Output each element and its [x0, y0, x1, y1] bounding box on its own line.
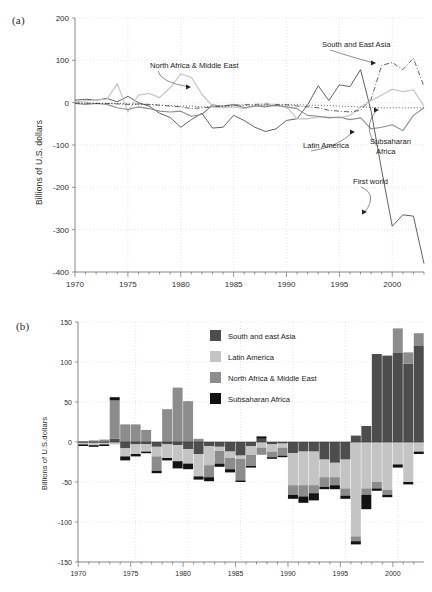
panel-a-label: (a): [12, 14, 25, 26]
bar-segment: [236, 480, 246, 482]
bar-segment: [204, 465, 214, 477]
bar-segment: [298, 452, 308, 486]
bar-segment: [89, 443, 99, 445]
bar-segment: [204, 477, 214, 481]
bar-segment: [361, 488, 371, 494]
bar-segment: [257, 442, 267, 448]
x-axis-tick-label: 1985: [228, 570, 244, 577]
bar-segment: [246, 455, 256, 466]
bar-segment: [393, 464, 403, 467]
bar-segment: [89, 445, 99, 447]
line-chart-a: -400-300-200-100010020019701975198019851…: [0, 0, 432, 300]
legend-label: Latin America: [228, 353, 275, 362]
bar-segment: [131, 442, 141, 444]
bar-segment: [309, 485, 319, 493]
bar-segment: [351, 442, 361, 536]
bar-group: [351, 436, 361, 545]
bar-segment: [246, 442, 256, 446]
bar-segment: [382, 490, 392, 495]
bar-group: [173, 388, 183, 469]
bar-segment: [173, 388, 183, 442]
bar-segment: [141, 444, 151, 451]
bar-group: [267, 442, 277, 459]
line-series-south-and-east-asia: [75, 58, 424, 112]
bar-segment: [162, 458, 172, 460]
bar-segment: [340, 496, 350, 499]
bar-group: [288, 442, 298, 499]
bar-segment: [152, 442, 162, 447]
x-axis-tick-label: 1990: [278, 280, 296, 289]
bar-segment: [330, 442, 340, 463]
bar-segment: [382, 442, 392, 490]
bar-segment: [246, 466, 256, 468]
bar-segment: [183, 449, 193, 463]
bar-segment: [403, 352, 413, 363]
stacked-bar-chart-b: -150-100-5005010015019701975198019851990…: [0, 300, 432, 592]
x-axis-tick-label: 1995: [330, 280, 348, 289]
panel-a-ylabel: Billions of U.S. dollars: [34, 120, 44, 205]
bar-segment: [183, 442, 193, 449]
bar-group: [403, 352, 413, 484]
bar-segment: [131, 454, 141, 456]
bar-group: [110, 397, 120, 444]
x-axis-tick-label: 1975: [123, 570, 139, 577]
bar-segment: [414, 442, 424, 452]
x-axis-tick-label: 1985: [225, 280, 243, 289]
legend-swatch: [210, 351, 221, 362]
y-axis-tick-label: -50: [62, 479, 72, 486]
bar-segment: [120, 424, 130, 442]
bar-group: [204, 442, 214, 481]
bar-segment: [110, 439, 120, 442]
x-axis-tick-label: 1970: [70, 570, 86, 577]
bar-segment: [215, 442, 225, 447]
bar-segment: [152, 447, 162, 457]
bar-segment: [173, 442, 183, 445]
bar-segment: [120, 456, 130, 460]
bar-segment: [351, 436, 361, 442]
x-axis-tick-label: 1995: [333, 570, 349, 577]
bar-segment: [382, 356, 392, 442]
bar-segment: [141, 452, 151, 454]
bar-segment: [288, 442, 298, 453]
y-axis-tick-label: -200: [53, 183, 70, 192]
legend-label: North Africa & Middle East: [228, 374, 318, 383]
bar-segment: [267, 442, 277, 444]
bar-segment: [309, 442, 319, 452]
panel-a: (a) Billions of U.S. dollars -400-300-20…: [0, 0, 432, 300]
x-axis-tick-label: 1975: [119, 280, 137, 289]
bar-segment: [319, 477, 329, 487]
bar-segment: [225, 469, 235, 472]
y-axis-tick-label: -100: [53, 141, 70, 150]
bar-segment: [162, 444, 172, 458]
bar-segment: [183, 401, 193, 442]
bar-segment: [225, 442, 235, 452]
bar-segment: [120, 448, 130, 456]
bar-segment: [99, 440, 109, 442]
x-axis-tick-label: 1970: [66, 280, 84, 289]
bar-group: [340, 442, 350, 499]
bar-segment: [393, 442, 403, 464]
bar-group: [120, 424, 130, 460]
x-axis-tick-label: 1980: [175, 570, 191, 577]
y-axis-tick-label: -100: [58, 519, 72, 526]
bar-segment: [183, 464, 193, 470]
legend-swatch: [210, 372, 221, 383]
bar-segment: [194, 476, 204, 479]
bar-segment: [319, 487, 329, 489]
legend-label: Subsaharan Africa: [228, 395, 291, 404]
bar-segment: [141, 430, 151, 442]
bar-segment: [152, 471, 162, 473]
x-axis-tick-label: 2000: [385, 570, 401, 577]
legend-swatch: [210, 393, 221, 404]
bar-segment: [215, 447, 225, 451]
y-axis-tick-label: 150: [60, 319, 72, 326]
bar-group: [298, 442, 308, 503]
bar-segment: [194, 454, 204, 476]
y-axis-tick-label: 50: [64, 399, 72, 406]
bar-group: [319, 442, 329, 489]
legend-label: South and east Asia: [228, 332, 296, 341]
bar-segment: [277, 444, 287, 448]
panel-b-ylabel: Billions of U.S.dollars: [40, 417, 49, 490]
bar-segment: [340, 460, 350, 489]
bar-segment: [225, 458, 235, 469]
